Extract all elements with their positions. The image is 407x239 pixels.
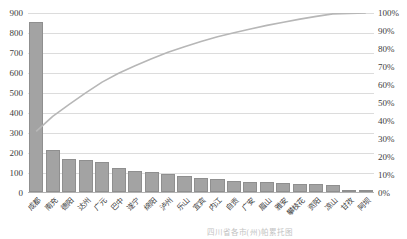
right-y-tick-label: 60% — [378, 80, 406, 90]
right-y-tick-label: 30% — [378, 134, 406, 144]
right-y-tick-label: 50% — [378, 98, 406, 108]
left-y-tick-label: 100 — [0, 168, 23, 178]
left-y-tick-label: 0 — [0, 188, 23, 198]
cumulative-line-layer — [28, 13, 374, 193]
pareto-chart: 9008007006005004003002001000 100%90%80%7… — [0, 0, 407, 239]
left-y-tick-label: 700 — [0, 48, 23, 58]
right-y-tick-label: 100% — [378, 8, 406, 18]
right-y-tick-label: 70% — [378, 62, 406, 72]
right-y-tick-label: 80% — [378, 44, 406, 54]
left-y-tick-label: 400 — [0, 108, 23, 118]
right-y-tick-label: 40% — [378, 116, 406, 126]
right-y-tick-label: 90% — [378, 26, 406, 36]
left-y-tick-label: 500 — [0, 88, 23, 98]
figure-caption: 四川省各市(州)帕累托图 — [110, 226, 390, 237]
left-y-tick-label: 200 — [0, 148, 23, 158]
left-y-tick-label: 600 — [0, 68, 23, 78]
cumulative-line — [36, 13, 366, 131]
left-y-tick-label: 300 — [0, 128, 23, 138]
right-y-tick-label: 20% — [378, 152, 406, 162]
right-y-tick-label: 0% — [378, 188, 406, 198]
left-y-tick-label: 900 — [0, 8, 23, 18]
plot-area — [28, 13, 374, 193]
left-y-tick-label: 800 — [0, 28, 23, 38]
right-y-tick-label: 10% — [378, 170, 406, 180]
